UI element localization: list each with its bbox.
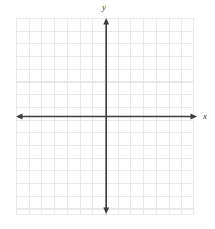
- y-axis-label: y: [102, 3, 106, 12]
- y-axis-top-arrowhead: [103, 18, 109, 25]
- coordinate-plane-figure: y x: [0, 0, 215, 229]
- x-axis-right-arrowhead: [191, 114, 198, 120]
- x-axis-left-arrowhead: [16, 114, 23, 120]
- x-axis-label: x: [203, 112, 207, 121]
- axes-layer: [0, 0, 215, 229]
- y-axis-bottom-arrowhead: [103, 208, 109, 215]
